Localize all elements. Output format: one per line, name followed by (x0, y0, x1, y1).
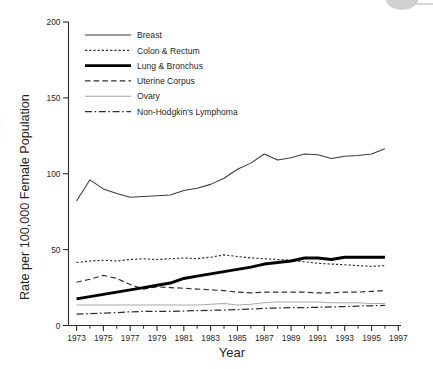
x-tick-label: 1983 (201, 333, 220, 343)
legend-label-breast: Breast (137, 30, 162, 40)
legend-label-non-hodgkin-s-lymphoma: Non-Hodgkin's Lymphoma (137, 107, 238, 117)
legend-label-uterine-corpus: Uterine Corpus (137, 76, 195, 86)
x-axis-label-group: Year (219, 345, 246, 360)
y-axis-label: Rate per 100,000 Female Population (18, 94, 32, 300)
x-tick-label: 1989 (282, 333, 301, 343)
x-tick-label: 1997 (389, 333, 408, 343)
x-tick-group: 1973197519771979198119831985198719891991… (67, 326, 408, 344)
data-series-group (77, 149, 385, 314)
series-line-breast (77, 149, 385, 201)
x-tick-label: 1975 (94, 333, 113, 343)
y-tick-label: 200 (47, 17, 61, 27)
y-tick-label: 150 (47, 93, 61, 103)
x-tick-label: 1993 (335, 333, 354, 343)
y-tick-label: 0 (56, 321, 61, 331)
scan-artifact-edge-text: · · · · · (0, 112, 5, 140)
x-tick-label: 1991 (309, 333, 328, 343)
legend-label-lung-bronchus: Lung & Bronchus (137, 61, 203, 71)
chart-legend: BreastColon & RectumLung & BronchusUteri… (85, 30, 238, 117)
y-tick-group: 050100150200 (47, 17, 69, 331)
x-tick-label: 1985 (228, 333, 247, 343)
x-tick-label: 1973 (67, 333, 86, 343)
y-axis-label-group: Rate per 100,000 Female Population (18, 94, 32, 300)
x-tick-label: 1977 (121, 333, 140, 343)
y-tick-label: 100 (47, 169, 61, 179)
axes (69, 22, 402, 326)
series-line-non-hodgkin-s-lymphoma (77, 305, 385, 314)
x-tick-label: 1979 (148, 333, 167, 343)
scan-artifact-bar (415, 3, 433, 5)
x-axis-label: Year (219, 345, 246, 360)
y-tick-label: 50 (51, 245, 61, 255)
legend-label-colon-rectum: Colon & Rectum (137, 46, 200, 56)
x-tick-label: 1987 (255, 333, 274, 343)
x-tick-label: 1981 (174, 333, 193, 343)
series-line-colon-rectum (77, 255, 385, 266)
series-line-ovary (77, 302, 385, 305)
x-tick-label: 1995 (362, 333, 381, 343)
legend-label-ovary: Ovary (137, 91, 161, 101)
